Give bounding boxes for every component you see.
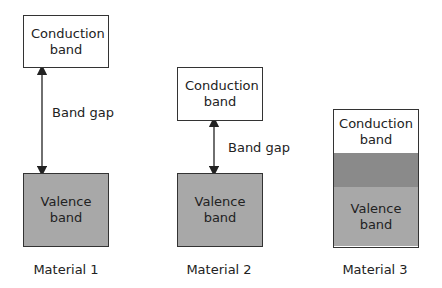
- material-2-band-gap-label: Band gap: [228, 140, 290, 155]
- material-1-label: Material 1: [33, 262, 98, 277]
- material-2-valence-band: Valence band: [177, 173, 263, 247]
- conduction-band-label: Conduction band: [339, 116, 414, 148]
- material-2-conduction-band: Conduction band: [177, 67, 263, 121]
- material-1-valence-band: Valence band: [23, 173, 109, 247]
- conduction-band-label: Conduction band: [185, 78, 255, 110]
- material-3-overlap-region: [334, 153, 418, 187]
- material-3-band-stack: Conduction band Valence band: [333, 109, 419, 248]
- material-1-band-gap-label: Band gap: [52, 105, 114, 120]
- valence-band-label: Valence band: [36, 194, 96, 226]
- valence-band-label: Valence band: [346, 201, 406, 233]
- material-3-label: Material 3: [342, 262, 407, 277]
- material-3-valence-band: Valence band: [334, 187, 418, 246]
- material-3-conduction-band: Conduction band: [334, 110, 418, 153]
- material-2-label: Material 2: [186, 262, 251, 277]
- material-1-conduction-band: Conduction band: [23, 15, 109, 68]
- valence-band-label: Valence band: [190, 194, 250, 226]
- conduction-band-label: Conduction band: [31, 26, 101, 58]
